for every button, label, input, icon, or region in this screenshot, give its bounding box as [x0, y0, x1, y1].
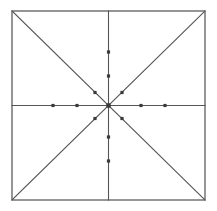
dot-north-outer [107, 50, 110, 53]
dot-south-inner [107, 135, 110, 138]
dot-east-inner [139, 104, 142, 107]
geometric-figure-svg [0, 0, 217, 211]
dot-northeast [120, 91, 123, 94]
center-point [106, 103, 110, 107]
dot-east-outer [163, 104, 166, 107]
figure-canvas [0, 0, 217, 211]
dot-northwest [93, 91, 96, 94]
dot-north-inner [107, 74, 110, 77]
dot-southeast [120, 117, 123, 120]
dot-southwest [93, 117, 96, 120]
dot-west-inner [75, 104, 78, 107]
dot-west-outer [51, 104, 54, 107]
dot-south-outer [107, 159, 110, 162]
